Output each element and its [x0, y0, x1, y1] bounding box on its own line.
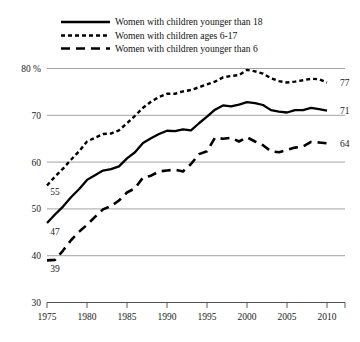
y-tick-label-80: 80 % — [21, 64, 41, 74]
start-value-label-0: 47 — [50, 227, 60, 237]
data-series — [47, 70, 327, 260]
y-tick-label-30: 30 — [32, 298, 42, 308]
y-tick-label-50: 50 — [32, 204, 42, 214]
gridlines — [47, 69, 345, 303]
y-axis-labels: 304050607080 % — [21, 64, 41, 308]
legend-label-1: Women with children ages 6-17 — [115, 30, 238, 41]
y-tick-label-60: 60 — [32, 158, 42, 168]
x-tick-label-1985: 1985 — [118, 312, 137, 322]
chart-legend: Women with children younger than 18Women… — [61, 16, 263, 54]
x-tick-label-1995: 1995 — [198, 312, 217, 322]
x-tick-label-2010: 2010 — [318, 312, 337, 322]
series-line-1 — [47, 70, 327, 186]
start-value-label-1: 55 — [50, 187, 60, 197]
start-value-label-2: 39 — [50, 264, 60, 274]
x-tick-label-1975: 1975 — [38, 312, 57, 322]
y-tick-label-40: 40 — [32, 251, 42, 261]
series-line-2 — [47, 137, 327, 260]
end-value-label-2: 64 — [340, 139, 350, 149]
chart-container: Women with children younger than 18Women… — [0, 0, 360, 342]
series-line-0 — [47, 102, 327, 223]
x-axis — [47, 303, 345, 309]
y-tick-label-70: 70 — [32, 111, 42, 121]
end-value-label-0: 71 — [340, 106, 350, 116]
line-chart: Women with children younger than 18Women… — [0, 0, 360, 342]
x-axis-labels: 19751980198519901995200020052010 — [38, 312, 337, 322]
x-tick-label-1980: 1980 — [78, 312, 97, 322]
end-value-label-1: 77 — [340, 78, 350, 88]
x-tick-label-2000: 2000 — [238, 312, 257, 322]
x-tick-label-1990: 1990 — [158, 312, 177, 322]
legend-label-0: Women with children younger than 18 — [115, 16, 263, 27]
legend-label-2: Women with children younger than 6 — [115, 43, 258, 54]
x-tick-label-2005: 2005 — [278, 312, 297, 322]
